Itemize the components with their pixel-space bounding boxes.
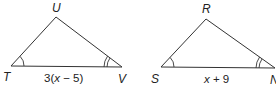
vertex-label-r: R [202, 2, 211, 16]
angle-t-single-arc [20, 56, 24, 66]
side-tv-length: 3(x − 5) [44, 72, 83, 84]
side-tv-prefix: 3( [44, 72, 54, 84]
angle-n-arc-inner [259, 59, 262, 68]
similar-triangles-figure: U T V 3(x − 5) R S N x + 9 [0, 0, 276, 87]
triangle-tuv: U T V 3(x − 5) [3, 1, 127, 86]
angle-s-single-arc [170, 58, 174, 68]
side-sn-length: x + 9 [203, 73, 229, 85]
side-tv-suffix: − 5) [60, 72, 84, 84]
vertex-label-n: N [270, 73, 276, 87]
angle-v-arc-inner [107, 58, 110, 67]
side-sn-suffix: + 9 [210, 73, 230, 85]
triangle-srn: R S N x + 9 [151, 2, 276, 87]
vertex-label-v: V [118, 72, 127, 86]
vertex-label-t: T [3, 70, 12, 84]
vertex-label-u: U [52, 1, 61, 15]
vertex-label-s: S [151, 72, 159, 86]
